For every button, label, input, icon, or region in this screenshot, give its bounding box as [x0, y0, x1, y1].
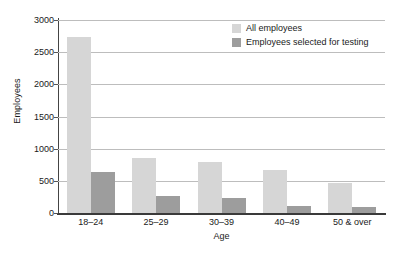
y-axis-tick	[54, 84, 58, 85]
y-axis-tick-labels: 050010001500200025003000	[20, 0, 54, 256]
y-axis-tick	[54, 213, 58, 214]
y-axis-tick-label: 2000	[22, 80, 54, 89]
bar	[352, 207, 376, 213]
y-axis-tick	[54, 149, 58, 150]
legend-item: All employees	[232, 22, 369, 34]
legend-label: Employees selected for testing	[246, 37, 369, 47]
legend-item: Employees selected for testing	[232, 36, 369, 48]
gridline	[58, 84, 385, 85]
y-axis-tick-label: 0	[22, 209, 54, 218]
bar	[263, 170, 287, 213]
y-axis-tick	[54, 52, 58, 53]
y-axis-tick-label: 2500	[22, 48, 54, 57]
legend-label: All employees	[246, 23, 302, 33]
y-axis-tick-label: 500	[22, 177, 54, 186]
legend-swatch	[232, 38, 241, 47]
bar-chart: Employees 050010001500200025003000 18–24…	[0, 0, 395, 256]
x-axis-tick-label: 50 & over	[312, 217, 392, 227]
bar	[287, 206, 311, 213]
y-axis-tick	[54, 20, 58, 21]
y-axis-tick-label: 1000	[22, 145, 54, 154]
bar	[222, 198, 246, 213]
bar	[132, 158, 156, 213]
chart-legend: All employeesEmployees selected for test…	[232, 22, 369, 50]
x-axis-title: Age	[58, 231, 385, 241]
gridline	[58, 149, 385, 150]
bar	[328, 183, 352, 213]
gridline	[58, 20, 385, 21]
y-axis-tick-label: 3000	[22, 16, 54, 25]
y-axis-tick	[54, 181, 58, 182]
y-axis-tick-label: 1500	[22, 113, 54, 122]
bar	[156, 196, 180, 213]
gridline	[58, 117, 385, 118]
legend-swatch	[232, 24, 241, 33]
y-axis-tick	[54, 117, 58, 118]
gridline	[58, 213, 385, 214]
bar	[67, 37, 91, 213]
bar	[198, 162, 222, 213]
bar	[91, 172, 115, 213]
gridline	[58, 52, 385, 53]
